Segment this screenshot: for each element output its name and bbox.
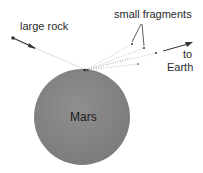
arrowhead-icon [185, 42, 193, 47]
earth-label: Earth [167, 62, 193, 73]
mars-label: Mars [70, 111, 97, 123]
large-rock-trajectory [11, 36, 86, 70]
small-fragments-label: small fragments [114, 9, 192, 20]
fragments-pointer-lines [132, 24, 144, 46]
large-rock-label: large rock [20, 21, 68, 32]
arrowhead-icon [28, 43, 36, 49]
to-label: to [183, 49, 192, 60]
fragment-dots [131, 43, 157, 65]
fragment-trajectories [86, 44, 156, 70]
large-rock-dot [11, 36, 15, 40]
